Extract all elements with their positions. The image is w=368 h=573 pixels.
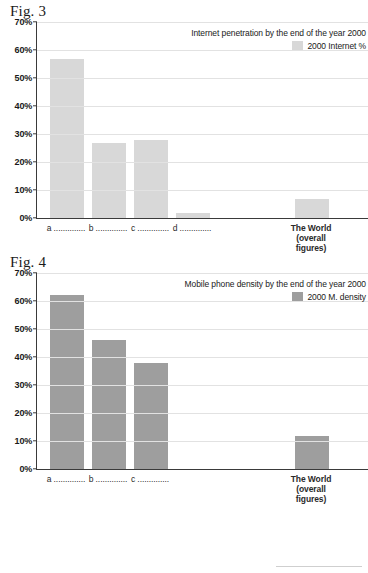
figure-4-legend-label: 2000 M. density	[307, 292, 366, 302]
figure-4-legend-row: 2000 M. density	[185, 292, 366, 302]
legend-swatch-icon	[292, 41, 303, 50]
figure-4-chart: Mobile phone density by the end of the y…	[0, 273, 368, 510]
figure-3-legend: Internet penetration by the end of the y…	[191, 28, 366, 51]
gridline	[37, 22, 368, 23]
figure-4-block: Fig. 4 Mobile phone density by the end o…	[0, 255, 368, 510]
y-axis-tick-mark	[33, 328, 37, 329]
figure-3-block: Fig. 3 Internet penetration by the end o…	[0, 0, 368, 259]
y-axis-tick-mark	[33, 49, 37, 50]
y-axis-tick-mark	[33, 384, 37, 385]
gridline	[37, 273, 368, 274]
bar	[92, 143, 126, 218]
bar	[295, 199, 329, 217]
figure-4-legend: Mobile phone density by the end of the y…	[185, 279, 366, 302]
y-axis-tick-mark	[33, 161, 37, 162]
x-axis-label: c ..............	[125, 474, 175, 484]
bar	[50, 295, 84, 468]
y-axis-tick-mark	[33, 272, 37, 273]
y-axis-tick-mark	[33, 21, 37, 22]
figure-3-legend-title: Internet penetration by the end of the y…	[191, 28, 366, 38]
figure-4-x-axis-labels: a ..............b ..............c ......…	[36, 470, 368, 510]
figure-4-legend-title: Mobile phone density by the end of the y…	[185, 279, 366, 289]
x-axis-label-world: The World (overall figures)	[286, 223, 336, 253]
figure-3-legend-row: 2000 Internet %	[191, 41, 366, 51]
x-axis-label: d ..............	[167, 223, 217, 233]
gridline	[37, 441, 368, 442]
figure-3-bars	[37, 22, 368, 218]
bar	[134, 140, 168, 218]
gridline	[37, 106, 368, 107]
figure-3-chart: Internet penetration by the end of the y…	[0, 22, 368, 259]
figure-4-bars	[37, 273, 368, 469]
figure-3-x-axis-labels: a ..............b ..............c ......…	[36, 219, 368, 259]
gridline	[37, 134, 368, 135]
y-axis-tick-mark	[33, 356, 37, 357]
legend-swatch-icon	[292, 292, 303, 301]
y-axis-tick-mark	[33, 189, 37, 190]
gridline	[37, 162, 368, 163]
bar	[92, 340, 126, 468]
y-axis-tick-mark	[33, 133, 37, 134]
figure-3-plot-area: 0%10%20%30%40%50%60%70%	[36, 22, 368, 219]
gridline	[37, 329, 368, 330]
y-axis-tick-mark	[33, 105, 37, 106]
figure-4-caption: Fig. 4	[0, 255, 368, 271]
y-axis-tick-mark	[33, 440, 37, 441]
bar	[50, 59, 84, 218]
y-axis-tick-mark	[33, 77, 37, 78]
y-axis-tick-mark	[33, 300, 37, 301]
gridline	[37, 190, 368, 191]
y-axis-tick-mark	[33, 412, 37, 413]
gridline	[37, 413, 368, 414]
gridline	[37, 78, 368, 79]
bar	[134, 363, 168, 469]
footer-rule	[276, 566, 362, 567]
gridline	[37, 385, 368, 386]
figure-4-plot-area: 0%10%20%30%40%50%60%70%	[36, 273, 368, 470]
figure-3-caption: Fig. 3	[0, 4, 368, 20]
bar	[176, 213, 210, 217]
gridline	[37, 357, 368, 358]
x-axis-label-world: The World (overall figures)	[286, 474, 336, 504]
figure-3-legend-label: 2000 Internet %	[307, 41, 366, 51]
